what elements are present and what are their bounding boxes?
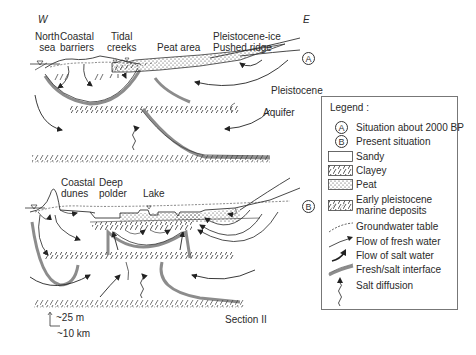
section-a (30, 38, 300, 162)
legend-box: Legend : A Situation about 2000 BP B Pre… (321, 96, 458, 310)
legend-label: Groundwater table (356, 221, 438, 232)
label-section-name: Section II (225, 314, 267, 325)
label-peat-area: Peat area (157, 42, 200, 53)
scale-vertical: ~25 m (56, 312, 84, 323)
legend-label: Flow of salt water (356, 250, 434, 261)
wavy-arrow-icon (328, 277, 354, 307)
label-aquifer: Aquifer (263, 107, 295, 118)
legend-label: Peat (356, 179, 377, 190)
section-b (25, 178, 300, 326)
legend-label: Flow of fresh water (356, 236, 440, 247)
section-b-marker: B (302, 200, 315, 213)
clayey-swatch-icon (328, 164, 354, 178)
legend-item-salt-diffusion: Salt diffusion (322, 277, 459, 307)
legend-item-peat: Peat (322, 178, 459, 192)
legend-item-fresh-flow: Flow of fresh water (322, 235, 459, 249)
legend-item-sandy: Sandy (322, 150, 459, 164)
legend-label: Salt diffusion (356, 280, 413, 291)
legend-label: Early pleistocenemarine deposits (356, 194, 432, 216)
label-lake: Lake (143, 188, 165, 199)
circle-b-icon: B (335, 135, 348, 148)
bold-arrow-icon (328, 249, 354, 263)
peat-swatch-icon (328, 178, 354, 192)
label-pleistocene: Pleistocene (271, 85, 323, 96)
label-deep-polder: Deeppolder (99, 177, 127, 199)
compass-west: W (38, 14, 47, 25)
legend-label: Fresh/salt interface (356, 264, 441, 275)
legend-label: Situation about 2000 BP (356, 122, 464, 133)
legend-label: Sandy (356, 151, 384, 162)
scale-horizontal: ~10 km (57, 328, 90, 339)
legend-item-marine-deposits: Early pleistocenemarine deposits (322, 193, 459, 219)
legend-item-situation-2000bp: A Situation about 2000 BP (322, 121, 459, 135)
section-a-marker: A (302, 52, 315, 65)
dashed-line-icon (328, 220, 354, 234)
compass-east: E (303, 14, 310, 25)
label-pushed-ridge: Pleistocene-icePushed ridge (213, 31, 281, 53)
sandy-swatch-icon (328, 150, 354, 164)
grey-band-icon (328, 263, 354, 277)
label-north-sea: Northsea (35, 31, 59, 53)
marine-swatch-icon (328, 199, 354, 213)
legend-item-clayey: Clayey (322, 164, 459, 178)
legend-item-present-situation: B Present situation (322, 135, 459, 149)
label-coastal-barriers: Coastalbarriers (60, 31, 94, 53)
legend-title: Legend : (330, 102, 369, 113)
legend-item-interface: Fresh/salt interface (322, 263, 459, 277)
legend-item-salt-flow: Flow of salt water (322, 249, 459, 263)
circle-a-icon: A (335, 121, 348, 134)
legend-label: Present situation (356, 136, 431, 147)
legend-label: Clayey (356, 165, 387, 176)
label-tidal-creeks: Tidalcreeks (107, 31, 136, 53)
thin-arrow-icon (328, 235, 354, 249)
legend-item-groundwater-table: Groundwater table (322, 220, 459, 234)
label-coastal-dunes: Coastaldunes (61, 177, 95, 199)
